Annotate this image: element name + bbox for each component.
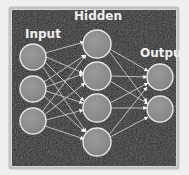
hidden-node-2 bbox=[83, 62, 111, 90]
input-layer-label: Input bbox=[25, 27, 61, 41]
input-node-3 bbox=[20, 108, 46, 134]
hidden-node-4 bbox=[83, 128, 111, 156]
input-node-1 bbox=[20, 44, 46, 70]
neural-network-canvas: Input Hidden Output bbox=[0, 0, 189, 175]
input-node-2 bbox=[20, 76, 46, 102]
output-node-2 bbox=[147, 96, 173, 122]
hidden-node-3 bbox=[83, 94, 111, 122]
neural-network-figure: Input Hidden Output bbox=[0, 0, 189, 175]
output-layer-label: Output bbox=[140, 46, 188, 60]
hidden-node-1 bbox=[83, 30, 111, 58]
input-layer-nodes bbox=[20, 44, 46, 134]
output-node-1 bbox=[147, 64, 173, 90]
hidden-layer-label: Hidden bbox=[74, 9, 122, 23]
